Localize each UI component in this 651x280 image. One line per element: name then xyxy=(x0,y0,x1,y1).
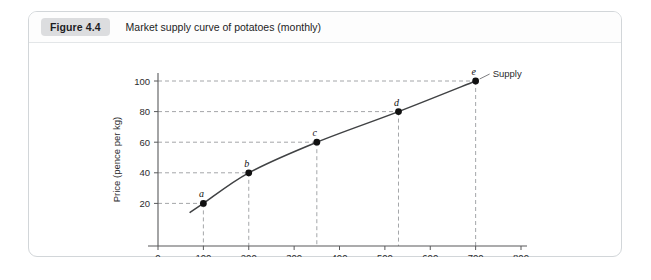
grid-dashed-lines xyxy=(158,81,476,246)
x-tick-label: 800 xyxy=(513,252,529,257)
x-tick-label: 400 xyxy=(332,252,348,257)
data-point-label-e: e xyxy=(471,66,476,77)
x-tick-label: 700 xyxy=(468,252,484,257)
chart-plot-area: 0100200300400500600700800 20406080100 ab… xyxy=(29,43,621,257)
x-tick-label: 100 xyxy=(195,252,211,257)
chart-axes xyxy=(148,73,527,246)
y-tick-label: 40 xyxy=(139,167,150,178)
y-axis-title: Price (pence per kg) xyxy=(111,117,122,203)
data-point-label-a: a xyxy=(199,188,204,199)
x-tick-label: 200 xyxy=(241,252,257,257)
supply-curve-line xyxy=(190,81,476,212)
data-points: abcde xyxy=(199,66,479,207)
data-point-dot xyxy=(245,169,252,176)
x-tick-label: 0 xyxy=(155,252,160,257)
data-point-dot xyxy=(313,139,320,146)
supply-leader-line xyxy=(480,74,490,79)
y-tick-label: 60 xyxy=(139,137,150,148)
y-tick-label: 100 xyxy=(134,76,150,87)
data-point-label-d: d xyxy=(394,97,400,108)
y-tick-label: 20 xyxy=(139,198,150,209)
supply-series-label: Supply xyxy=(493,68,522,79)
data-point-label-c: c xyxy=(313,127,318,138)
y-tick-label: 80 xyxy=(139,106,150,117)
x-tick-label: 300 xyxy=(286,252,302,257)
data-point-dot xyxy=(200,200,207,207)
x-axis-ticks: 0100200300400500600700800 xyxy=(155,246,529,257)
figure-header: Figure 4.4 Market supply curve of potato… xyxy=(29,12,621,43)
data-point-dot xyxy=(395,108,402,115)
figure-panel: Figure 4.4 Market supply curve of potato… xyxy=(28,11,622,257)
data-point-label-b: b xyxy=(244,158,249,169)
series-annotation: Supply xyxy=(480,68,522,79)
figure-number-badge: Figure 4.4 xyxy=(41,18,110,37)
x-tick-label: 500 xyxy=(377,252,393,257)
supply-curve-chart: 0100200300400500600700800 20406080100 ab… xyxy=(29,43,623,257)
x-tick-label: 600 xyxy=(422,252,438,257)
y-axis-ticks: 20406080100 xyxy=(134,76,158,209)
figure-title: Market supply curve of potatoes (monthly… xyxy=(126,21,322,33)
data-point-dot xyxy=(472,78,479,85)
